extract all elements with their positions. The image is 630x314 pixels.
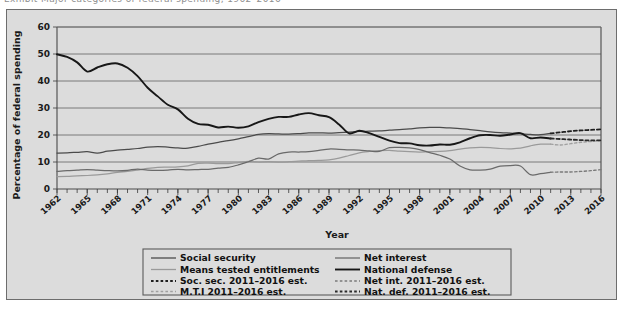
projection-line-projection_soc_sec <box>551 129 601 133</box>
legend-label-projection_soc_sec: Soc. sec. 2011–2016 est. <box>180 275 307 286</box>
data-series <box>57 54 551 176</box>
y-tick-label: 30 <box>37 103 50 113</box>
clipped-header-strip: Exhibit Major categories of federal spen… <box>0 0 630 8</box>
x-tick-label: 1989 <box>310 193 334 216</box>
legend-label-projection_net_int: Net int. 2011–2016 est. <box>364 275 485 286</box>
y-tick-label: 60 <box>37 22 50 32</box>
y-axis-label: Percentage of federal spending <box>11 30 22 199</box>
x-tick-label: 2016 <box>582 193 606 216</box>
x-tick-label: 1968 <box>99 193 123 216</box>
legend-label-national_defense: National defense <box>364 264 452 275</box>
y-tick-label: 40 <box>37 76 50 86</box>
x-tick-label: 1992 <box>341 193 365 216</box>
x-tick-label: 2001 <box>431 193 455 216</box>
series-line-national_defense <box>57 54 551 145</box>
projection-line-projection_mti <box>551 141 601 145</box>
x-tick-label: 2007 <box>492 193 516 216</box>
x-tick-label: 1980 <box>220 193 244 216</box>
y-axis-ticks: 0102030405060 <box>37 22 57 194</box>
x-tick-label: 1962 <box>38 193 62 216</box>
y-tick-label: 10 <box>37 157 50 167</box>
series-line-social_security <box>57 127 551 153</box>
projection-series <box>551 129 601 172</box>
clipped-header-text: Exhibit Major categories of federal spen… <box>4 0 281 4</box>
y-tick-label: 50 <box>37 49 50 59</box>
x-tick-label: 1971 <box>129 193 153 216</box>
x-tick-label: 1986 <box>280 193 304 216</box>
chart-legend: Social securityNet interestMeans tested … <box>143 249 511 297</box>
x-tick-label: 2013 <box>552 193 576 216</box>
legend-label-projection_nat_def: Nat. def. 2011–2016 est. <box>364 286 490 297</box>
x-tick-label: 1998 <box>401 193 425 216</box>
legend-label-means_tested: Means tested entitlements <box>180 264 320 275</box>
x-tick-label: 1995 <box>371 193 395 216</box>
legend-label-net_interest: Net interest <box>364 252 427 263</box>
chart-figure: 0102030405060 19621965196819711974197719… <box>6 9 617 300</box>
x-tick-label: 2004 <box>461 193 485 216</box>
x-tick-label: 2010 <box>522 193 546 216</box>
gridlines <box>57 27 601 162</box>
projection-line-projection_net_int <box>551 170 601 173</box>
x-tick-label: 1977 <box>189 193 213 216</box>
legend-label-social_security: Social security <box>180 252 256 263</box>
x-axis-ticks: 1962196519681971197419771980198319861989… <box>38 189 606 216</box>
x-tick-label: 1983 <box>250 193 274 216</box>
y-tick-label: 0 <box>44 184 50 194</box>
legend-label-projection_mti: M.T.I 2011–2016 est. <box>180 286 286 297</box>
x-axis-label: Year <box>324 229 349 240</box>
x-tick-label: 1965 <box>69 193 93 216</box>
line-chart: 0102030405060 19621965196819711974197719… <box>7 10 616 299</box>
y-tick-label: 20 <box>37 130 50 140</box>
projection-line-projection_nat_def <box>551 139 601 141</box>
x-tick-label: 1974 <box>159 193 183 216</box>
